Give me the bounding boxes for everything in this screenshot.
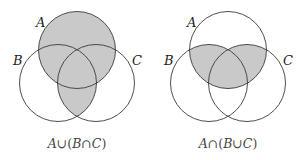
shaded-region: [39, 12, 135, 122]
label-a: A: [186, 15, 196, 30]
caption: A∪(B∩C): [47, 136, 107, 151]
label-c: C: [283, 53, 293, 68]
label-c: C: [132, 53, 142, 68]
label-a: A: [35, 15, 45, 30]
venn-figure: A B C A∪(B∩C) A B C A∩(B∪C): [0, 0, 302, 160]
label-b: B: [12, 53, 23, 68]
union-diagram: A B C A∪(B∩C): [12, 12, 142, 152]
caption: A∩(B∪C): [198, 136, 258, 151]
shaded-region: [171, 45, 286, 122]
label-b: B: [163, 53, 174, 68]
intersection-diagram: A B C A∩(B∪C): [163, 12, 293, 152]
